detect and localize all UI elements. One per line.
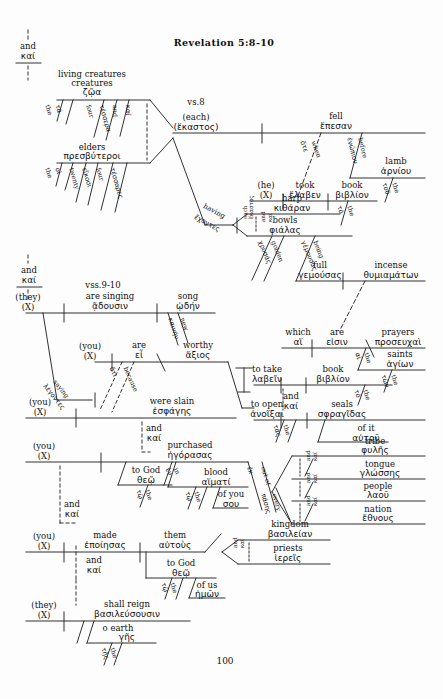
mod-the-en: the — [44, 104, 53, 116]
inf-toopen-gk: ἀνοῖξαι — [250, 410, 284, 419]
inf-art-the2-en: the — [282, 424, 291, 436]
subject-you-made-en: (you) — [33, 532, 55, 541]
obj-them-en: them — [164, 531, 186, 540]
instrument-blood-gk: αἵματί — [201, 478, 230, 487]
subject-you-worthy-gk: (X) — [84, 352, 97, 361]
page-title: Revelation 5:8-10 — [174, 38, 275, 48]
pred-full-gk: γεμούσας — [298, 271, 342, 280]
obj-song-en: song — [178, 292, 198, 301]
subject-living-gk: ζῷα — [83, 88, 101, 97]
subject-he-gk: (X) — [260, 191, 273, 200]
inf-art-the-en: the — [362, 389, 371, 401]
pred-full-en: full — [313, 261, 327, 270]
list-nation-gk: ἔθνους — [362, 514, 393, 523]
mod-and-gk: καί — [124, 105, 131, 115]
obj-saints-en: saints — [387, 350, 412, 359]
appositive-each-gk: (ἕκαστος) — [173, 123, 218, 132]
conjunction-and-mid-en: and — [21, 266, 37, 275]
verb-took-en: took — [296, 181, 315, 190]
conjunction-and-inf-en: and — [283, 392, 299, 401]
mod-andbowls-en: and — [261, 211, 267, 222]
inf-obj-book-en: book — [323, 365, 344, 374]
verb-are-en: are — [330, 328, 344, 337]
verb-reign-gk: βασιλεύσουσιν — [94, 610, 160, 619]
poss-ofus-gk: ἡμῶν — [195, 590, 219, 599]
verse-marker-vss910: vss.9-10 — [85, 281, 120, 290]
subject-they-sing-en: (they) — [15, 293, 40, 302]
indirect-toGod2-en: to God — [167, 559, 196, 568]
subject-they-reign-en: (they) — [31, 601, 56, 610]
verse-marker-vs8: vs.8 — [187, 98, 204, 107]
mod-thebook-en: the — [346, 205, 355, 217]
conjunction-and-made-gk: καί — [87, 566, 101, 575]
verb-are-gk: εἰσιν — [326, 338, 348, 347]
inf-obj-seals-en: seals — [331, 400, 353, 409]
mod-thegod-en: the — [144, 489, 153, 501]
page-number: 100 — [216, 657, 233, 666]
verb-singing-en: are singing — [86, 292, 135, 301]
mod-thesaints-en: the — [390, 374, 399, 386]
mod-onearth-gk: γῆς — [119, 633, 135, 642]
inf-totake-gk: λαβεῖν — [252, 375, 282, 384]
listconj-and3-en: and — [306, 495, 312, 506]
verb-fell-en: fell — [329, 112, 343, 121]
poss-ofyou-gk: σου — [223, 500, 239, 509]
conjunction-and-purchased-en: and — [64, 500, 80, 509]
inf-obj-book-gk: βιβλίον — [316, 375, 349, 384]
subject-you-made-gk: (X) — [38, 542, 51, 551]
verb-slain-en: were slain — [150, 397, 194, 406]
subject-which-en: which — [285, 328, 311, 337]
verb-are2-en: are — [132, 341, 146, 350]
mod-thelamb-en: the — [391, 182, 400, 194]
diagram-page: Revelation 5:8-10 100 vs.8 vss.9-10 and … — [0, 0, 443, 699]
verb-made-gk: ἐποίησας — [84, 541, 125, 550]
verb-purchased-gk: ἠγόρασας — [167, 451, 212, 460]
pred-worthy-gk: ἄξιος — [186, 351, 211, 360]
mod-each-gk: ἕκαστος — [249, 195, 255, 219]
obj-book-en: book — [342, 181, 363, 190]
obj-bowls-en: bowls — [273, 216, 298, 225]
obj-book-gk: βιβλίον — [335, 191, 368, 200]
subject-he-en: (he) — [257, 181, 274, 190]
list-people-gk: λαοῦ — [367, 491, 389, 500]
mod-the2-en: the — [44, 167, 53, 179]
verb-reign-en: shall reign — [104, 600, 150, 609]
comp-incense-en: incense — [375, 261, 408, 270]
comp-priests-en: priests — [273, 544, 302, 553]
listconj-and3-gk: καί — [313, 497, 319, 506]
poss-ofyou-en: of you — [218, 490, 244, 499]
comp-priests-gk: ἱερεῖς — [275, 554, 302, 563]
comp-kingdom-en: kingdom — [271, 520, 308, 529]
subject-they-sing-gk: (X) — [22, 303, 35, 312]
subject-which-gk: αἵ — [294, 338, 303, 347]
obj-song-gk: ᾠδήν — [176, 302, 200, 311]
indirect-toGod-gk: θεῷ — [137, 476, 155, 485]
obj-lamb-gk: ἀρνίου — [381, 167, 411, 176]
pred-prayers-gk: προσευχαὶ — [375, 338, 422, 347]
obj-harp-en: harp — [282, 194, 302, 203]
conjunction-and-purchased-gk: καί — [65, 510, 79, 519]
pred-prayers-en: prayers — [382, 328, 415, 337]
list-tongue-gk: γλώσσης — [360, 469, 401, 478]
diagram-lines — [0, 0, 443, 699]
obj-harp-gk: κιθάραν — [274, 204, 310, 213]
obj-them-gk: αὐτοὺς — [159, 541, 192, 550]
subject-elders-gk: πρεσβύτεροι — [63, 152, 120, 161]
verb-slain-gk: ἐσφάγης — [153, 407, 192, 416]
conjunction-and-top-gk: καί — [21, 52, 35, 61]
list-tribe-gk: φυλῆς — [361, 446, 388, 455]
conjunction-and-slain-en: and — [146, 424, 162, 433]
mod-theblood-en: the — [193, 491, 202, 503]
subject-you-worthy-en: (you) — [79, 342, 101, 351]
listconj-and1-en: and — [306, 450, 312, 461]
verb-are2-gk: εἶ — [135, 351, 143, 360]
pred-worthy-en: worthy — [183, 341, 213, 350]
conjunction-and-top-en: and — [20, 42, 36, 51]
obj-bowls-gk: φιάλας — [269, 226, 300, 235]
indirect-toGod2-gk: θεῷ — [172, 569, 190, 578]
obj-lamb-en: lamb — [385, 157, 406, 166]
inf-obj-seals-gk: σφραγῖδας — [318, 410, 366, 419]
verb-singing-gk: ᾷδουσιν — [92, 302, 128, 311]
listconj-and2-gk: καί — [313, 474, 319, 483]
conjunction-and-mid-gk: καί — [22, 276, 36, 285]
